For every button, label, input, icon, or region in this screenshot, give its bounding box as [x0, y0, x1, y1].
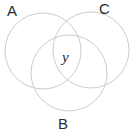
set-label-c: C — [99, 1, 110, 16]
set-circle-a — [5, 13, 81, 89]
set-label-b: B — [58, 116, 68, 131]
region-label-center-intersection: y — [62, 50, 69, 65]
set-circle-b — [31, 35, 107, 111]
set-label-a: A — [7, 3, 17, 18]
venn-diagram: A C B y — [0, 0, 134, 134]
venn-circles-svg — [0, 0, 134, 134]
